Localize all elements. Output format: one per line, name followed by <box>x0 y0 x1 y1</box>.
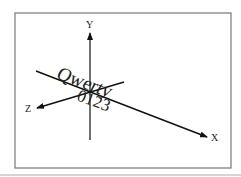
axes-diagram: Y X Z Qwerty 0123 <box>0 0 241 177</box>
z-axis-label: Z <box>25 103 31 114</box>
x-axis-label: X <box>211 132 219 143</box>
y-axis-label: Y <box>86 19 93 30</box>
frame-border <box>15 13 231 168</box>
